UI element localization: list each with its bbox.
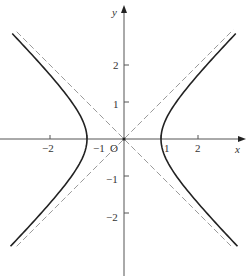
x-tick-label-neg1: −1: [93, 142, 105, 154]
y-tick-label-2: 2: [113, 59, 119, 71]
hyperbola-diagram: x y O −2 −1 1 2 2 1 −1 −2: [0, 0, 250, 279]
y-axis-arrow-icon: [121, 5, 127, 13]
x-tick-label-1: 1: [164, 142, 170, 154]
origin-dot: [122, 137, 125, 140]
x-axis-arrow-icon: [238, 136, 246, 142]
y-tick-label-neg1: −1: [106, 173, 118, 185]
axis-labels: x y O −2 −1 1 2 2 1 −1 −2: [42, 6, 240, 223]
x-tick-label-2: 2: [195, 142, 201, 154]
y-tick-label-neg2: −2: [106, 211, 118, 223]
hyperbola-right-branch: [161, 34, 237, 247]
origin-label: O: [110, 142, 118, 154]
y-tick-label-1: 1: [113, 98, 119, 110]
x-tick-label-neg2: −2: [42, 142, 54, 154]
y-axis-label: y: [111, 6, 117, 18]
x-axis-label: x: [234, 143, 240, 155]
